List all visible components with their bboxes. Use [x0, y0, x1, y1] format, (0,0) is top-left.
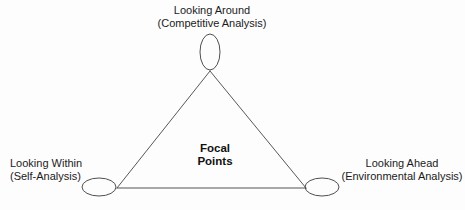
center-title: Focal Points	[197, 142, 232, 168]
node-marker-looking-ahead[interactable]	[305, 178, 339, 196]
node-label-looking-ahead-line1: Looking Ahead	[341, 157, 462, 170]
center-title-line2: Points	[197, 155, 232, 168]
edge-top-to-right	[210, 71, 306, 188]
node-marker-looking-within[interactable]	[82, 178, 116, 196]
node-marker-looking-around[interactable]	[200, 34, 220, 70]
edge-top-to-left	[117, 71, 210, 188]
node-label-looking-within-line1: Looking Within	[10, 157, 82, 170]
focal-points-diagram: Looking Around (Competitive Analysis) Lo…	[0, 0, 465, 210]
node-label-looking-within: Looking Within (Self-Analysis)	[10, 157, 82, 183]
node-label-looking-around-line1: Looking Around	[158, 4, 267, 17]
center-title-line1: Focal	[197, 142, 232, 155]
node-label-looking-within-line2: (Self-Analysis)	[10, 170, 82, 183]
triangle-edges	[117, 71, 306, 188]
node-markers	[82, 34, 339, 196]
node-label-looking-ahead-line2: (Environmental Analysis)	[341, 170, 462, 183]
node-label-looking-around: Looking Around (Competitive Analysis)	[158, 4, 267, 30]
node-label-looking-around-line2: (Competitive Analysis)	[158, 17, 267, 30]
node-label-looking-ahead: Looking Ahead (Environmental Analysis)	[341, 157, 462, 183]
